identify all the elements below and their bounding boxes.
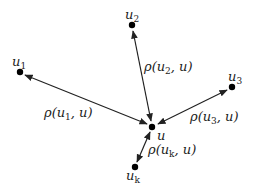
label-u1: u1 [12,54,26,71]
edge-label-u3: ρ(u3, u) [189,109,239,126]
edge-label-uk: ρ(uk, u) [147,142,196,159]
edge-u2-u [133,31,151,121]
edge-label-u1: ρ(u1, u) [43,105,93,122]
label-uk: uk [126,168,140,185]
label-u3: u3 [228,69,242,86]
label-u: u [157,128,165,143]
node-u [149,124,155,130]
node-u3 [229,84,235,90]
star-graph: u1 u2 u3 u uk ρ(u1, u) ρ(u2, u) ρ(u3, u)… [0,0,253,193]
label-u2: u2 [125,7,139,24]
diagram-canvas: u1 u2 u3 u uk ρ(u1, u) ρ(u2, u) ρ(u3, u)… [0,0,253,193]
edge-label-u2: ρ(u2, u) [143,59,193,76]
